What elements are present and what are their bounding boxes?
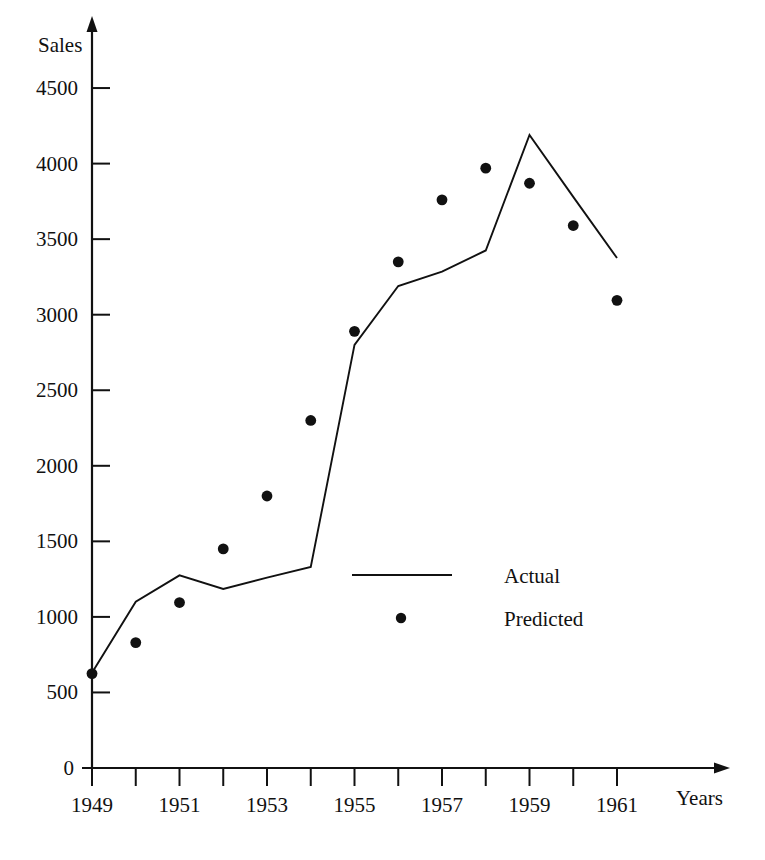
predicted-point-1950	[130, 637, 141, 648]
predicted-point-1959	[524, 178, 535, 189]
y-tick-label-4500: 4500	[36, 76, 78, 100]
sales-forecast-chart: Sales Years 0500100015002000250030003500…	[0, 0, 765, 860]
predicted-point-1955	[349, 326, 360, 337]
y-axis-arrowhead	[87, 16, 98, 32]
x-axis-arrowhead	[714, 763, 730, 774]
y-tick-label-3500: 3500	[36, 227, 78, 251]
series-actual	[92, 135, 617, 673]
y-tick-label-2000: 2000	[36, 454, 78, 478]
x-tick-label-1949: 1949	[71, 793, 113, 817]
y-tick-label-3000: 3000	[36, 303, 78, 327]
predicted-point-1953	[262, 491, 273, 502]
y-tick-label-500: 500	[47, 680, 79, 704]
x-tick-group: 1949195119531955195719591961	[71, 768, 638, 817]
y-tick-label-0: 0	[64, 756, 75, 780]
predicted-point-1952	[218, 544, 229, 555]
x-tick-label-1957: 1957	[421, 793, 463, 817]
legend: Actual Predicted	[352, 564, 584, 631]
x-axis-title: Years	[676, 786, 723, 810]
y-tick-label-1500: 1500	[36, 529, 78, 553]
y-axis-title: Sales	[38, 33, 82, 57]
x-tick-label-1959: 1959	[509, 793, 551, 817]
predicted-point-1951	[174, 597, 185, 608]
predicted-point-1957	[437, 194, 448, 205]
x-tick-label-1951: 1951	[159, 793, 201, 817]
y-tick-group: 050010001500200025003000350040004500	[36, 76, 110, 780]
x-tick-label-1961: 1961	[596, 793, 638, 817]
predicted-point-1949	[87, 668, 98, 679]
series-predicted	[87, 163, 623, 679]
legend-actual-label: Actual	[504, 564, 560, 588]
y-tick-label-4000: 4000	[36, 152, 78, 176]
chart-container: Sales Years 0500100015002000250030003500…	[0, 0, 765, 860]
predicted-point-1960	[568, 220, 579, 231]
x-tick-label-1955: 1955	[334, 793, 376, 817]
y-tick-label-1000: 1000	[36, 605, 78, 629]
predicted-point-1954	[305, 415, 316, 426]
x-tick-label-1953: 1953	[246, 793, 288, 817]
actual-line	[92, 135, 617, 673]
legend-predicted-label: Predicted	[504, 607, 584, 631]
predicted-point-1961	[612, 295, 623, 306]
legend-predicted-dot-swatch	[396, 613, 406, 623]
y-axis	[87, 16, 98, 768]
predicted-point-1956	[393, 256, 404, 267]
y-tick-label-2500: 2500	[36, 378, 78, 402]
predicted-point-1958	[480, 163, 491, 174]
